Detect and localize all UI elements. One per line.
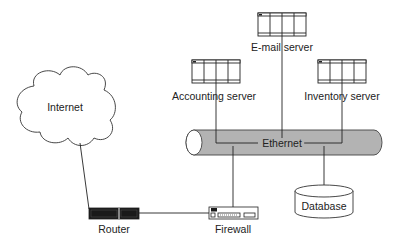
email-server-icon [258, 13, 306, 36]
inventory-server-label: Inventory server [304, 91, 379, 102]
email-server-label: E-mail server [251, 42, 313, 53]
router-label: Router [98, 224, 130, 235]
database-label: Database [302, 201, 347, 212]
accounting-server-icon [192, 60, 240, 83]
firewall-label: Firewall [215, 224, 251, 235]
internet-label: Internet [47, 102, 83, 113]
inventory-server-icon [318, 60, 366, 83]
router-icon [89, 208, 139, 219]
accounting-server-label: Accounting server [172, 91, 256, 102]
ethernet-label: Ethernet [260, 138, 304, 149]
firewall-icon [209, 207, 258, 219]
